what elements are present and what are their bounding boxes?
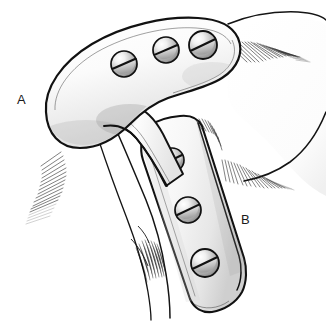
soft-tissue-hatch-shaft (136, 240, 166, 282)
soft-tissue-hatch-right-fade (270, 180, 294, 190)
figure-label-b: B (241, 213, 250, 226)
figure-label-a: A (17, 93, 26, 106)
figure-root: A B (0, 0, 326, 322)
surgical-illustration (0, 0, 326, 322)
screw-v-2[interactable] (174, 196, 201, 223)
bone-shaft-left-edge (99, 141, 151, 320)
soft-tissue-hatch-left (30, 152, 66, 212)
screw-h-1[interactable] (110, 50, 137, 77)
horizontal-plate-group[interactable] (34, 18, 242, 164)
screw-v-3[interactable] (190, 248, 219, 277)
screw-h-2[interactable] (152, 36, 179, 63)
screw-h-3[interactable] (188, 30, 217, 59)
bone-contour-hook-1 (138, 226, 149, 243)
soft-tissue-hatch-right (222, 160, 285, 188)
